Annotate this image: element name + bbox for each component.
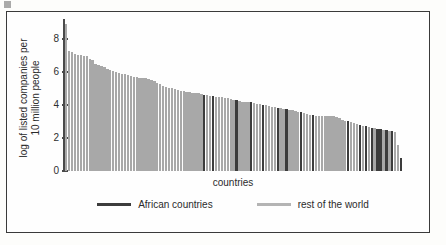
plot-area: 02468 (63, 19, 403, 171)
y-axis-tick-label: 4 (53, 100, 59, 110)
legend-swatch-rest-icon (257, 203, 291, 206)
chart-legend: African countries rest of the world (63, 199, 403, 210)
legend-label-rest: rest of the world (298, 199, 369, 210)
legend-item-african: African countries (97, 199, 212, 210)
figure-container: log of listed companies per 10 million p… (0, 0, 446, 245)
page-artifact-mark (4, 1, 11, 8)
y-axis-tick-label: 0 (53, 166, 59, 176)
x-axis-label: countries (63, 177, 403, 188)
y-axis-tick-label: 6 (53, 67, 59, 77)
bar-series (65, 19, 403, 171)
legend-label-african: African countries (138, 199, 212, 210)
legend-item-rest: rest of the world (257, 199, 369, 210)
bar-african (400, 158, 402, 171)
y-axis-tick-label: 2 (53, 133, 59, 143)
y-axis-tick-label: 8 (53, 34, 59, 44)
y-axis-tick-labels: 02468 (37, 19, 59, 171)
legend-swatch-african-icon (97, 203, 131, 206)
y-axis-title-line-1: log of listed companies per (18, 22, 30, 174)
